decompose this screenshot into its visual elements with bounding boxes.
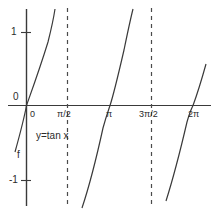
y-axis-label-f: f	[17, 150, 20, 160]
tan-branch-zero-to-half-pi	[27, 9, 56, 106]
y-tick-label-negative-one: -1	[9, 175, 18, 185]
tan-branch-three-half-pi-to-two-pi	[166, 64, 206, 201]
x-tick-label-pi: π	[106, 110, 112, 119]
y-tick-label-positive-one: 1	[11, 27, 17, 37]
tan-branch-left-of-origin	[15, 106, 27, 153]
x-tick-label-two-pi: 2π	[188, 110, 199, 119]
plot-canvas	[0, 0, 214, 212]
x-tick-label-zero: 0	[30, 110, 35, 119]
tangent-function-plot: 1 -1 0 0 π/2 π 3π/2 2π y=tan x f	[0, 0, 214, 212]
x-tick-label-half-pi: π/2	[57, 110, 71, 119]
equation-annotation: y=tan x	[36, 131, 69, 141]
x-tick-label-three-half-pi: 3π/2	[139, 110, 158, 119]
origin-label: 0	[13, 92, 19, 102]
